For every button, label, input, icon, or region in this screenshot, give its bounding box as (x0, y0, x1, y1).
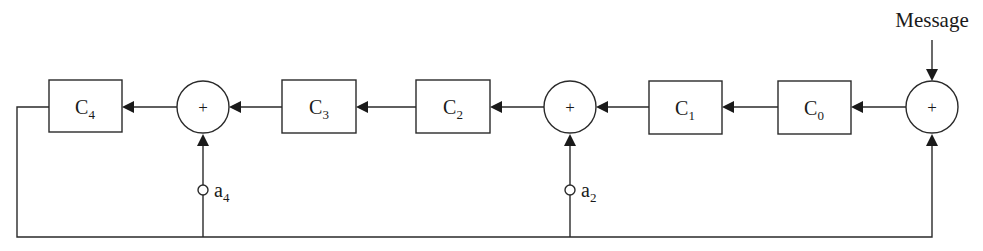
plus-icon: + (198, 98, 208, 117)
register-c4: C4 (49, 80, 122, 132)
plus-icon: + (927, 98, 937, 117)
adder-middle: + (544, 81, 596, 133)
message-label: Message (895, 8, 968, 32)
register-c1: C1 (649, 81, 722, 134)
arrowhead-icon (490, 101, 502, 113)
arrowhead-icon (122, 101, 134, 113)
arrowhead-icon (596, 101, 608, 113)
arrowhead-icon (356, 101, 368, 113)
adder-input: + (906, 81, 958, 133)
register-c3: C3 (282, 80, 356, 133)
register-c0: C0 (778, 81, 851, 134)
arrowhead-icon (926, 69, 938, 81)
arrowhead-icon (564, 134, 576, 146)
arrowhead-icon (851, 101, 863, 113)
arrowhead-icon (197, 134, 209, 146)
svg-text:a2: a2 (581, 179, 596, 205)
arrowhead-icon (926, 134, 938, 146)
arrowhead-icon (229, 101, 241, 113)
plus-icon: + (565, 98, 575, 117)
register-c2: C2 (416, 80, 490, 133)
svg-text:a4: a4 (214, 179, 230, 205)
lfsr-diagram: C4 C3 C2 C1 C0 + + + a4 a2 Message (0, 0, 983, 251)
adder-left: + (177, 81, 229, 133)
arrowhead-icon (722, 101, 734, 113)
